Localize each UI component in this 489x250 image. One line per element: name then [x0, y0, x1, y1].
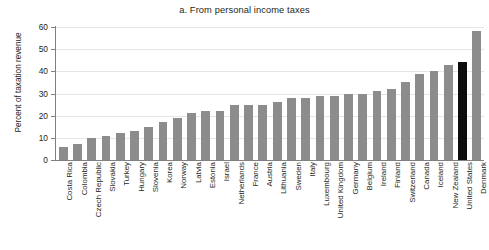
- bar: [216, 111, 225, 160]
- chart-title: a. From personal income taxes: [0, 5, 489, 15]
- x-tick-label: Lithuania: [280, 162, 288, 194]
- x-tick-label: Slovakia: [109, 162, 117, 192]
- bar: [73, 144, 82, 160]
- bar: [401, 82, 410, 160]
- chart-container: a. From personal income taxes Percent of…: [0, 0, 489, 250]
- bar: [287, 98, 296, 160]
- y-tick-label: 20: [18, 112, 48, 120]
- bar: [415, 74, 424, 160]
- plot-area: [56, 27, 484, 160]
- bar: [59, 147, 68, 160]
- x-tick-label: Israel: [223, 162, 231, 181]
- x-tick-label: Canada: [423, 162, 431, 190]
- bar: [373, 91, 382, 160]
- bar: [258, 105, 267, 160]
- y-tick-mark: [51, 138, 55, 139]
- x-tick-label: Luxembourg: [323, 162, 331, 206]
- y-tick-mark: [51, 160, 55, 161]
- bar: [187, 113, 196, 160]
- bar: [173, 118, 182, 160]
- y-tick-label: 10: [18, 134, 48, 142]
- bar: [358, 94, 367, 161]
- bar: [201, 111, 210, 160]
- y-tick-mark: [51, 71, 55, 72]
- x-tick-label: Italy: [309, 162, 317, 176]
- x-tick-label: Hungary: [138, 162, 146, 192]
- x-tick-label: Estonia: [209, 162, 217, 188]
- y-axis-line: [55, 26, 56, 161]
- x-tick-label: Iceland: [437, 162, 445, 187]
- x-tick-label: United States: [466, 162, 474, 209]
- x-tick-label: Sweden: [295, 162, 303, 191]
- y-axis-title: Percent of taxation revenue: [14, 13, 23, 153]
- x-tick-label: Ireland: [380, 162, 388, 186]
- x-tick-label: Slovenia: [152, 162, 160, 192]
- bar: [472, 31, 481, 160]
- x-tick-label: Costa Rica: [66, 162, 74, 201]
- y-tick-label: 30: [18, 90, 48, 98]
- bar: [159, 122, 168, 160]
- x-tick-label: Turkey: [123, 162, 131, 186]
- bar: [458, 62, 467, 160]
- x-tick-label: Czech Republic: [95, 162, 103, 217]
- bar: [244, 105, 253, 160]
- y-tick-label: 60: [18, 23, 48, 31]
- x-tick-label: Colombia: [81, 162, 89, 195]
- y-tick-label: 40: [18, 67, 48, 75]
- x-tick-label: Germany: [352, 162, 360, 194]
- x-tick-label: Latvia: [195, 162, 203, 183]
- bar: [102, 136, 111, 160]
- bar: [87, 138, 96, 160]
- bar: [316, 96, 325, 160]
- bar: [344, 94, 353, 161]
- bar: [144, 127, 153, 160]
- bar: [116, 133, 125, 160]
- x-tick-label: Norway: [180, 162, 188, 189]
- x-tick-label: United Kingdom: [337, 162, 345, 218]
- y-tick-mark: [51, 49, 55, 50]
- bar: [330, 96, 339, 160]
- gridline: [56, 49, 484, 50]
- bar: [387, 89, 396, 160]
- x-tick-label: Finland: [394, 162, 402, 188]
- gridline: [56, 27, 484, 28]
- x-tick-label: Switzerland: [409, 162, 417, 203]
- x-tick-label: Denmark: [480, 162, 488, 194]
- y-tick-mark: [51, 116, 55, 117]
- x-tick-label: Netherlands: [238, 162, 246, 205]
- bar: [430, 71, 439, 160]
- y-tick-mark: [51, 27, 55, 28]
- x-tick-label: New Zealand: [452, 162, 460, 209]
- x-axis-category-labels: Costa RicaColombiaCzech RepublicSlovakia…: [56, 162, 484, 250]
- x-tick-label: Belgium: [366, 162, 374, 191]
- y-tick-label: 0: [18, 156, 48, 164]
- bar: [130, 131, 139, 160]
- bar: [273, 102, 282, 160]
- y-tick-label: 50: [18, 45, 48, 53]
- y-tick-mark: [51, 94, 55, 95]
- bar: [230, 105, 239, 160]
- gridline: [56, 71, 484, 72]
- bar: [301, 98, 310, 160]
- bar: [444, 65, 453, 160]
- x-tick-label: Korea: [166, 162, 174, 183]
- x-tick-label: Austria: [266, 162, 274, 187]
- x-tick-label: France: [252, 162, 260, 187]
